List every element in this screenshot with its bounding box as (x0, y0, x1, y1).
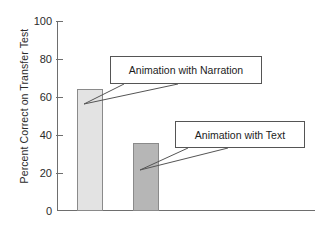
y-tick-label: 60 (40, 91, 52, 103)
y-tick-mark (56, 59, 63, 60)
y-axis-title: Percent Correct on Transfer Test (18, 6, 30, 206)
plot-area: 100 80 60 40 20 0 (57, 21, 315, 211)
callout-label: Animation with Narration (129, 64, 243, 76)
callout-label: Animation with Text (195, 129, 285, 141)
bar-animation-with-narration (77, 89, 103, 211)
y-axis-line (57, 21, 58, 211)
callout-animation-with-narration: Animation with Narration (110, 56, 262, 84)
y-tick-label: 20 (40, 167, 52, 179)
y-tick-mark (56, 135, 63, 136)
callout-animation-with-text: Animation with Text (175, 121, 305, 148)
y-tick-label: 80 (40, 53, 52, 65)
y-tick-mark (56, 97, 63, 98)
y-tick-label: 40 (40, 129, 52, 141)
y-tick-label: 0 (46, 205, 52, 217)
bar-chart: Percent Correct on Transfer Test 100 80 … (0, 0, 321, 238)
y-tick-label: 100 (34, 15, 52, 27)
y-tick-mark (56, 21, 63, 22)
bar-animation-with-text (133, 143, 159, 211)
y-tick-mark (56, 173, 63, 174)
